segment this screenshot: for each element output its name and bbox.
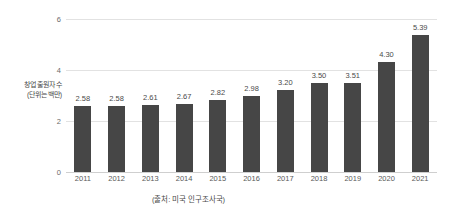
bar-slot: 2.58 bbox=[66, 19, 100, 172]
bar-value-label: 3.51 bbox=[345, 71, 360, 80]
x-tick-label: 2018 bbox=[302, 174, 336, 188]
bar-value-label: 2.82 bbox=[210, 88, 225, 97]
bar-slot: 5.39 bbox=[403, 19, 437, 172]
gridline-0: 0 bbox=[66, 172, 437, 173]
bar[interactable] bbox=[142, 105, 159, 172]
bar-slot: 3.20 bbox=[268, 19, 302, 172]
bar[interactable] bbox=[108, 106, 125, 172]
x-tick-label: 2020 bbox=[370, 174, 404, 188]
bar[interactable] bbox=[412, 35, 429, 172]
bar-slot: 3.50 bbox=[302, 19, 336, 172]
y-axis-title-line1: 창업 출원자 수 bbox=[24, 81, 62, 88]
bar-value-label: 2.98 bbox=[244, 84, 259, 93]
x-tick-label: 2012 bbox=[100, 174, 134, 188]
bar-series: 2.582.582.612.672.822.983.203.503.514.30… bbox=[66, 19, 437, 172]
y-tick-label: 6 bbox=[57, 15, 61, 24]
x-tick-label: 2016 bbox=[235, 174, 269, 188]
bar-slot: 2.61 bbox=[133, 19, 167, 172]
bar[interactable] bbox=[176, 104, 193, 172]
bar-value-label: 5.39 bbox=[413, 23, 428, 32]
bar-value-label: 2.67 bbox=[177, 92, 192, 101]
bar-slot: 2.98 bbox=[235, 19, 269, 172]
bar[interactable] bbox=[311, 83, 328, 172]
bar-slot: 2.82 bbox=[201, 19, 235, 172]
bar[interactable] bbox=[209, 100, 226, 172]
x-tick-label: 2021 bbox=[403, 174, 437, 188]
y-axis-title: 창업 출원자 수 (단위는 백만) bbox=[4, 80, 62, 100]
x-axis-labels: 2011201220132014201520162017201820192020… bbox=[66, 174, 437, 188]
bar-value-label: 4.30 bbox=[379, 50, 394, 59]
bar[interactable] bbox=[243, 96, 260, 172]
bar[interactable] bbox=[277, 90, 294, 172]
bar-chart: 창업 출원자 수 (단위는 백만) 0246 2.582.582.612.672… bbox=[0, 0, 450, 219]
bar-value-label: 2.58 bbox=[109, 94, 124, 103]
y-tick-label: 0 bbox=[57, 168, 61, 177]
x-tick-label: 2017 bbox=[268, 174, 302, 188]
bar[interactable] bbox=[74, 106, 91, 172]
plot-area: 0246 2.582.582.612.672.822.983.203.503.5… bbox=[66, 19, 437, 172]
bar-value-label: 3.50 bbox=[312, 71, 327, 80]
bar-slot: 4.30 bbox=[370, 19, 404, 172]
x-tick-label: 2013 bbox=[133, 174, 167, 188]
y-tick-label: 4 bbox=[57, 66, 61, 75]
bar-value-label: 2.58 bbox=[76, 94, 91, 103]
bar-value-label: 3.20 bbox=[278, 78, 293, 87]
x-tick-label: 2011 bbox=[66, 174, 100, 188]
bar[interactable] bbox=[378, 62, 395, 172]
x-tick-label: 2015 bbox=[201, 174, 235, 188]
bar-slot: 2.67 bbox=[167, 19, 201, 172]
y-axis-title-line2: (단위는 백만) bbox=[4, 90, 62, 100]
bar[interactable] bbox=[344, 83, 361, 173]
x-tick-label: 2019 bbox=[336, 174, 370, 188]
bar-value-label: 2.61 bbox=[143, 93, 158, 102]
bar-slot: 2.58 bbox=[100, 19, 134, 172]
y-tick-label: 2 bbox=[57, 117, 61, 126]
source-note: (출처: 미국 인구조사국) bbox=[66, 193, 311, 204]
bar-slot: 3.51 bbox=[336, 19, 370, 172]
x-tick-label: 2014 bbox=[167, 174, 201, 188]
